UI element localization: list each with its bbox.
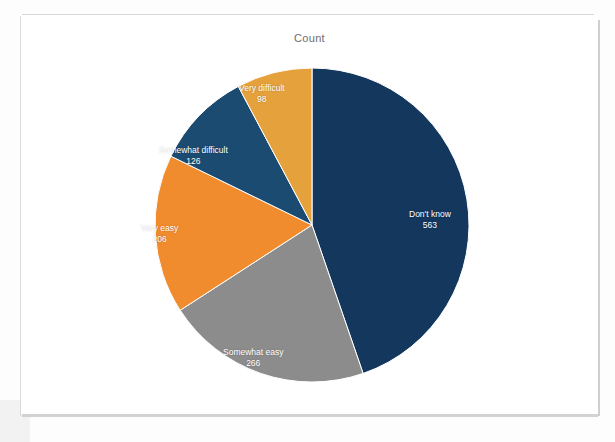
pie-label-value: 563 <box>409 220 451 231</box>
pie-label-name: Somewhat difficult <box>159 145 228 156</box>
pie-label-value: 98 <box>239 94 285 105</box>
pie-label-value: 126 <box>159 156 228 167</box>
pie-label-value: 266 <box>223 358 283 369</box>
pie-label-name: Very easy <box>141 223 178 234</box>
pie-label-value: 206 <box>141 234 178 245</box>
pie-label-name: Somewhat easy <box>223 347 283 358</box>
paper-edge-bottom <box>22 414 598 417</box>
pie-label-somewhat-difficult: Somewhat difficult126 <box>159 145 228 167</box>
pie-label-very-difficult: Very difficult98 <box>239 83 285 105</box>
pie-chart-svg <box>21 15 598 414</box>
pie-label-name: Don't know <box>409 209 451 220</box>
pie-label-somewhat-easy: Somewhat easy266 <box>223 347 283 369</box>
pie-label-name: Very difficult <box>239 83 285 94</box>
pie-chart-area: Don't know563Somewhat easy266Very easy20… <box>21 15 598 414</box>
pie-label-very-easy: Very easy206 <box>141 223 178 245</box>
pie-chart-card: Count Don't know563Somewhat easy266Very … <box>21 15 598 414</box>
pie-label-don-t-know: Don't know563 <box>409 209 451 231</box>
paper-edge-right <box>598 20 600 416</box>
screenshot-canvas: Count Don't know563Somewhat easy266Very … <box>0 0 615 442</box>
